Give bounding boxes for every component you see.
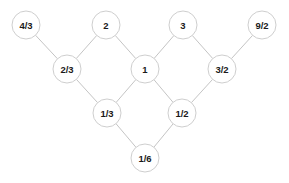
graph-canvas: 4/3239/22/313/21/31/21/6 xyxy=(0,0,289,183)
node-label: 1/6 xyxy=(138,153,151,164)
graph-edge xyxy=(76,35,96,58)
node-label: 1/3 xyxy=(100,108,113,119)
node-label: 4/3 xyxy=(19,20,32,31)
graph-edge xyxy=(231,35,252,58)
graph-edge xyxy=(154,80,173,103)
graph-edge xyxy=(116,124,136,148)
node-label: 1 xyxy=(142,64,148,75)
node-label: 2 xyxy=(103,20,108,31)
graph-edge xyxy=(154,124,173,147)
graph-node: 4/3 xyxy=(12,11,40,39)
graph-edge xyxy=(36,35,58,59)
node-label: 1/2 xyxy=(175,108,188,119)
graph-edge xyxy=(191,79,212,102)
graph-node: 9/2 xyxy=(248,11,276,39)
graph-node: 2/3 xyxy=(53,55,81,83)
graph-edge xyxy=(76,79,97,102)
graph-node: 3/2 xyxy=(208,55,236,83)
edges-layer xyxy=(36,35,253,147)
graph-node: 1/6 xyxy=(131,144,159,172)
graph-edge xyxy=(116,80,136,103)
graph-node: 1 xyxy=(131,55,159,83)
node-label: 9/2 xyxy=(255,20,268,31)
node-label: 3/2 xyxy=(215,64,228,75)
graph-edge xyxy=(154,36,174,59)
fraction-diagram: 4/3239/22/313/21/31/21/6 xyxy=(0,0,289,183)
node-label: 3 xyxy=(180,20,185,31)
graph-node: 3 xyxy=(169,11,197,39)
graph-edge xyxy=(192,35,212,58)
graph-node: 1/2 xyxy=(168,99,196,127)
node-label: 2/3 xyxy=(60,64,73,75)
graph-node: 1/3 xyxy=(93,99,121,127)
graph-node: 2 xyxy=(92,11,120,39)
graph-edge xyxy=(115,35,135,58)
nodes-layer: 4/3239/22/313/21/31/21/6 xyxy=(12,11,276,172)
